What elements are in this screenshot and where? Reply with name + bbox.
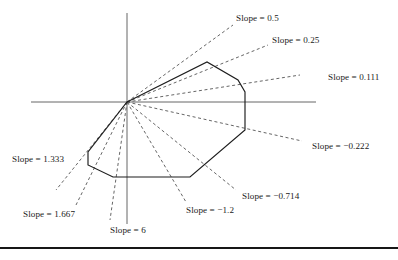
label--0-222: Slope = −0.222 — [312, 142, 369, 151]
ray--1-2 — [127, 102, 186, 202]
ray-0-25 — [127, 45, 268, 102]
label-1-667: Slope = 1.667 — [23, 210, 75, 219]
label--0-714: Slope = −0.714 — [242, 192, 299, 201]
convex-polygon-shape — [88, 62, 245, 177]
label--1-2: Slope = −1.2 — [186, 206, 234, 215]
ray--0-222 — [127, 102, 302, 141]
label-0-111: Slope = 0.111 — [328, 73, 379, 82]
polygon-group — [88, 62, 245, 177]
ray-0-5 — [127, 25, 233, 102]
label-1-333: Slope = 1.333 — [12, 155, 64, 164]
diagram-canvas — [0, 0, 398, 260]
label-6: Slope = 6 — [110, 226, 146, 235]
slope-diagram-figure: Slope = 0.5Slope = 0.25Slope = 0.111Slop… — [0, 0, 398, 260]
label-0-5: Slope = 0.5 — [236, 14, 279, 23]
label-0-25: Slope = 0.25 — [272, 36, 320, 45]
